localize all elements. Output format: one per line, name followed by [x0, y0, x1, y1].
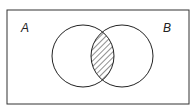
set-a-label: A	[21, 22, 29, 34]
set-b-label: B	[163, 22, 171, 34]
venn-diagram	[0, 0, 196, 110]
